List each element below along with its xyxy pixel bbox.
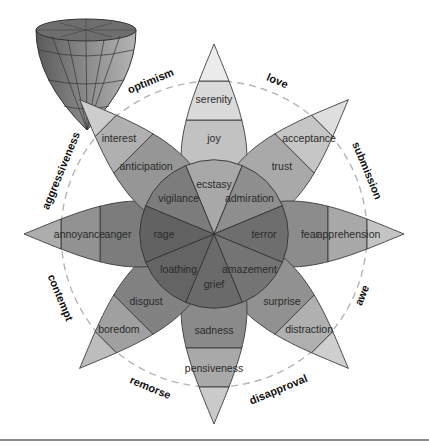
emotion-label-anticipation: anticipation <box>120 160 173 172</box>
emotion-label-loathing: loathing <box>160 263 197 275</box>
emotion-label-terror: terror <box>251 228 277 240</box>
emotion-label-vigilance: vigilance <box>158 192 199 204</box>
emotion-label-trust: trust <box>272 160 293 172</box>
emotion-label-disgust: disgust <box>129 295 162 307</box>
emotion-label-grief: grief <box>204 278 225 290</box>
emotion-label-amazement: amazement <box>222 263 277 275</box>
emotion-wheel-diagram: ecstasyjoyserenityadmirationtrustaccepta… <box>0 0 429 448</box>
emotion-label-boredom: boredom <box>98 323 140 335</box>
petal-sadness <box>181 298 247 424</box>
bottom-divider <box>0 439 429 441</box>
dyad-label-optimism: optimism <box>126 66 176 96</box>
emotion-label-annoyance: annoyance <box>54 228 106 240</box>
dyad-label-awe: awe <box>352 283 371 307</box>
dyad-label-submission: submission <box>350 140 385 201</box>
emotion-label-apprehension: apprehension <box>317 228 381 240</box>
dyad-label-remorse: remorse <box>128 374 173 402</box>
emotion-label-pensiveness: pensiveness <box>185 362 243 374</box>
emotion-label-interest: interest <box>102 132 137 144</box>
emotion-label-distraction: distraction <box>285 323 333 335</box>
petal-joy <box>181 44 247 170</box>
emotion-label-admiration: admiration <box>225 192 274 204</box>
dyad-label-disapproval: disapproval <box>247 372 309 407</box>
emotion-label-rage: rage <box>153 228 174 240</box>
dyad-label-contempt: contempt <box>46 272 76 323</box>
emotion-label-surprise: surprise <box>263 295 301 307</box>
emotion-label-anger: anger <box>105 228 132 240</box>
emotion-label-ecstasy: ecstasy <box>196 178 232 190</box>
emotion-label-sadness: sadness <box>194 324 233 336</box>
dyad-label-love: love <box>265 71 290 91</box>
emotion-label-acceptance: acceptance <box>282 132 336 144</box>
emotion-label-serenity: serenity <box>196 93 234 105</box>
emotion-label-joy: joy <box>206 132 221 144</box>
